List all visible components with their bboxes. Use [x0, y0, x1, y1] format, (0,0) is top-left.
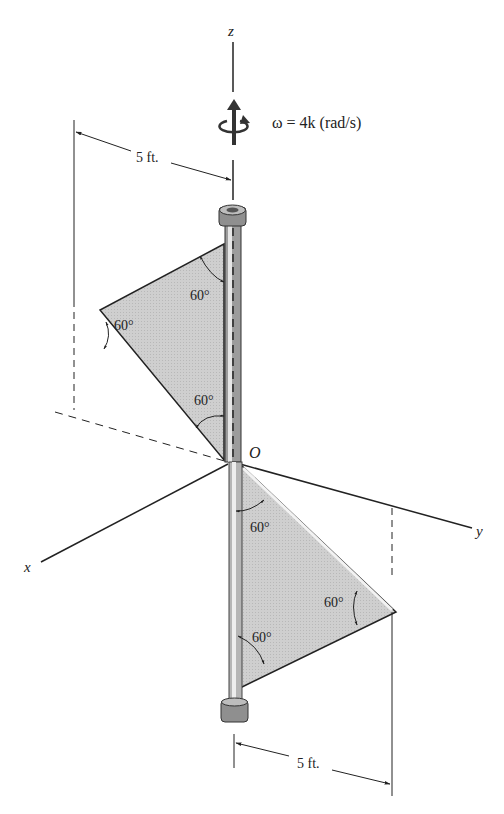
lower-plate: [240, 464, 396, 688]
angle-arc: [104, 322, 109, 349]
angle-label: 60°: [250, 520, 270, 535]
angle-label: 60°: [190, 288, 210, 303]
angle-label: 60°: [194, 393, 214, 408]
angle-label: 60°: [114, 318, 134, 333]
angular-velocity-label: ω = 4k (rad/s): [272, 114, 361, 132]
rotating-plates-diagram: z ω = 4k (rad/s) 5 ft. 60° 60° 60° O: [0, 0, 504, 814]
bottom-cap: [221, 698, 248, 722]
x-axis-label: x: [23, 559, 31, 575]
origin-label: O: [249, 444, 261, 461]
angle-label: 60°: [252, 630, 272, 645]
y-axis-label: y: [474, 523, 483, 539]
x-axis: [41, 464, 228, 562]
angle-label: 60°: [324, 595, 344, 610]
z-axis-label: z: [227, 23, 234, 39]
upper-rod: [225, 222, 241, 462]
bottom-dimension-label: 5 ft.: [297, 756, 320, 771]
top-dimension-label: 5 ft.: [136, 150, 159, 165]
upper-plate: [100, 244, 224, 460]
rotation-icon: [220, 99, 250, 145]
top-cap: [219, 205, 246, 226]
lower-rod: [229, 462, 242, 702]
